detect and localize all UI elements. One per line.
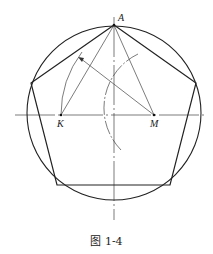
- pentagon-construction-diagram: A K M: [0, 0, 213, 254]
- construction-line-M-to-arc: [80, 58, 154, 115]
- point-K: [60, 114, 63, 117]
- point-M: [153, 114, 156, 117]
- arc-centered-A-radius-AK: [61, 52, 82, 115]
- arc-centered-M: [104, 54, 138, 150]
- point-A: [113, 24, 116, 27]
- label-K: K: [56, 118, 65, 129]
- label-M: M: [149, 118, 159, 129]
- label-A: A: [117, 12, 125, 23]
- arrowhead-icon: [78, 57, 84, 62]
- figure-caption: 图 1-4: [0, 232, 213, 248]
